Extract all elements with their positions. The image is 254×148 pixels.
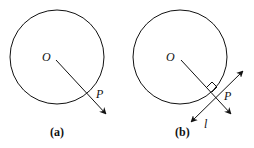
circle: [133, 10, 227, 104]
point-label: P: [223, 89, 232, 103]
tangent-label: l: [204, 117, 208, 131]
caption: (b): [175, 125, 190, 139]
panel-b: O P l (b): [133, 10, 243, 139]
circle: [10, 10, 104, 104]
right-angle-mark: [207, 82, 217, 92]
point-label: P: [95, 87, 104, 101]
center-label: O: [42, 50, 51, 64]
panel-a: O P (a): [10, 10, 106, 139]
radius-arrow: [181, 60, 231, 114]
center-label: O: [166, 50, 175, 64]
figure: O P (a) O P l (b): [0, 0, 254, 148]
caption: (a): [50, 125, 64, 139]
